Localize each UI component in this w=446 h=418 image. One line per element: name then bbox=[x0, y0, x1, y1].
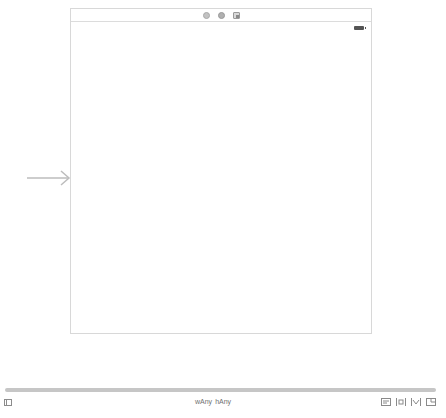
storyboard-canvas[interactable] bbox=[0, 0, 446, 386]
battery-tip bbox=[365, 27, 366, 29]
align-icon[interactable] bbox=[381, 398, 391, 406]
resizing-behavior-icon[interactable] bbox=[426, 398, 436, 406]
resolve-autolayout-icon[interactable] bbox=[411, 398, 421, 406]
first-responder-icon[interactable] bbox=[218, 12, 225, 19]
width-size-class: wAny bbox=[195, 398, 212, 405]
editor-bottom-bar: wAny hAny bbox=[0, 386, 446, 418]
size-class-toggle[interactable]: wAny hAny bbox=[195, 398, 231, 405]
view-controller-icon[interactable] bbox=[203, 12, 210, 19]
autolayout-tools bbox=[381, 398, 436, 406]
pin-icon[interactable] bbox=[396, 398, 406, 406]
height-size-class: hAny bbox=[215, 398, 231, 405]
initial-view-controller-arrow-icon[interactable] bbox=[27, 170, 71, 186]
horizontal-scrollbar[interactable] bbox=[5, 388, 436, 392]
root-view[interactable] bbox=[71, 22, 371, 333]
scene-dock bbox=[71, 9, 371, 22]
battery-icon bbox=[354, 26, 364, 30]
view-controller-scene[interactable] bbox=[70, 8, 372, 334]
exit-icon[interactable] bbox=[233, 12, 240, 19]
bottom-toolbar: wAny hAny bbox=[0, 396, 446, 414]
document-outline-icon[interactable] bbox=[4, 399, 12, 406]
status-bar bbox=[354, 26, 366, 30]
